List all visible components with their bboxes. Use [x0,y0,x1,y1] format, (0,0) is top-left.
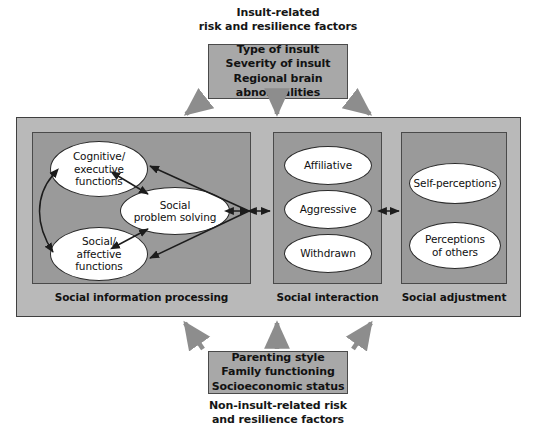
top-gray-arrows [186,100,370,114]
node-perceptions-of-others: Perceptions of others [409,222,501,269]
bottom-caption-line1: Non-insult-related risk [178,399,378,413]
node-cognitive-line0: Cognitive/ [70,150,128,163]
node-perceptions-line1: of others [422,246,488,259]
top-caption-line1: Insult-related [178,6,378,20]
panel-label-social-interaction: Social interaction [273,291,382,303]
panel-label-social-information-processing: Social information processing [32,291,251,303]
node-sps-line1: problem solving [131,211,220,224]
node-perceptions-line0: Perceptions [422,233,488,246]
panel-label-social-adjustment: Social adjustment [401,291,507,303]
node-withdrawn: Withdrawn [284,234,372,273]
node-affiliative: Affiliative [284,146,372,185]
insult-factor-item-2: Regional brain abnormalities [209,72,347,101]
insult-factor-item-0: Type of insult [209,43,347,58]
node-social-affective-functions: Social/ affective functions [50,227,148,281]
node-social-problem-solving: Social problem solving [120,187,230,235]
bottom-caption: Non-insult-related risk and resilience f… [178,399,378,426]
node-affective-line2: functions [72,260,125,273]
node-cognitive-line2: functions [70,175,128,188]
node-self-perceptions-label: Self-perceptions [410,177,499,190]
node-withdrawn-label: Withdrawn [297,247,359,260]
node-affiliative-label: Affiliative [301,159,355,172]
non-insult-related-factors-box: Parenting style Family functioning Socio… [208,351,348,394]
node-sps-line0: Social [131,199,220,212]
node-affective-line0: Social/ [72,235,125,248]
node-aggressive: Aggressive [284,190,372,229]
bottom-caption-line2: and resilience factors [178,413,378,427]
node-cognitive-line1: executive [70,163,128,176]
insult-factor-item-1: Severity of insult [209,57,347,72]
top-caption: Insult-related risk and resilience facto… [178,6,378,33]
bottom-gray-arrows [185,323,371,349]
top-caption-line2: risk and resilience factors [178,20,378,34]
non-insult-factor-item-0: Parenting style [209,351,347,366]
diagram-canvas: Insult-related risk and resilience facto… [0,0,538,445]
node-self-perceptions: Self-perceptions [409,163,501,204]
insult-related-factors-box: Type of insult Severity of insult Region… [208,44,348,99]
node-affective-line1: affective [72,248,125,261]
node-aggressive-label: Aggressive [297,203,360,216]
non-insult-factor-item-1: Family functioning [209,365,347,380]
non-insult-factor-item-2: Socioeconomic status [209,380,347,395]
node-cognitive-executive-functions: Cognitive/ executive functions [50,141,148,197]
